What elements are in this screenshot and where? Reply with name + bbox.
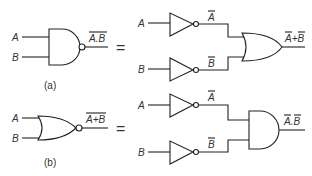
nand-gate-icon [49,29,80,65]
inversion-bubble-icon [76,125,82,131]
equals-sign-a: = [116,39,125,56]
inversion-bubble-icon [79,44,85,50]
inverter-icon [170,94,193,117]
inverter-icon [170,58,193,81]
input-a-label: A [137,100,145,111]
inversion-bubble-icon [194,68,199,73]
not-b-label: B [208,139,215,150]
not-b-label: B [208,58,215,69]
part-a-equivalent-circuit: A A B B A+B [137,11,305,81]
output-label: A+B [85,114,106,125]
input-b-label: B [12,133,19,144]
wire-not-a [199,105,250,120]
or-gate-icon [242,33,282,61]
part-b-equivalent-circuit: A A B B A.B [137,91,305,164]
input-a-label: A [11,32,19,43]
input-a-label: A [11,113,19,124]
inversion-bubble-icon [194,103,199,108]
inverter-icon [170,13,193,36]
wire-not-b [199,140,250,152]
output-label: A+B [284,33,305,44]
demorgan-diagram: A B A.B (a) = A A B B A+B A B [0,0,312,176]
part-b-nor-circuit: A B A+B (b) [11,113,108,168]
caption-a: (a) [44,80,56,91]
inversion-bubble-icon [194,22,199,27]
input-a-label: A [137,18,145,29]
inversion-bubble-icon [194,150,199,155]
output-label: A.B [88,33,105,44]
wire-not-b [199,57,245,70]
input-b-label: B [138,147,145,158]
and-gate-icon [249,111,279,149]
input-b-label: B [12,52,19,63]
output-label: A.B [283,116,300,127]
wire-not-a [199,24,245,37]
part-a-nand-circuit: A B A.B (a) [11,29,108,91]
input-b-label: B [138,64,145,75]
inverter-icon [170,141,193,164]
equals-sign-b: = [116,120,125,137]
nor-gate-icon [38,116,76,140]
not-a-label: A [207,92,215,103]
caption-b: (b) [44,157,56,168]
not-a-label: A [207,12,215,23]
